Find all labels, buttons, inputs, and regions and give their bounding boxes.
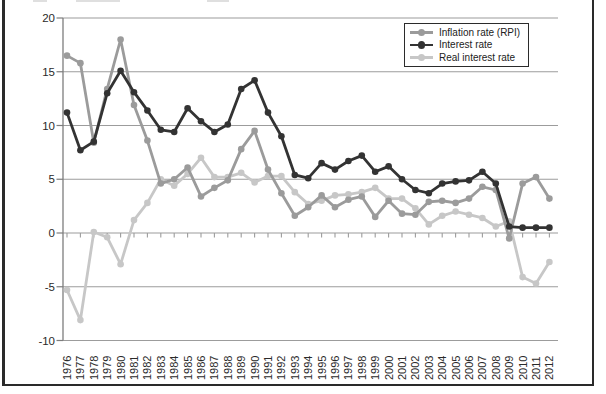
series-interest-rate-point-1979 (104, 90, 111, 97)
x-axis-label: 1992 (275, 356, 287, 380)
x-axis-label: 1979 (101, 356, 113, 380)
series-interest-rate-point-2007 (479, 168, 486, 175)
series-real-interest-rate-point-2010 (519, 274, 526, 281)
series-real-interest-rate-point-2003 (426, 221, 433, 228)
series-inflation-rate-rpi-point-1982 (144, 137, 151, 144)
series-interest-rate-point-2011 (533, 224, 540, 231)
legend-label: Interest rate (439, 39, 492, 50)
series-interest-rate-point-1986 (198, 118, 205, 125)
x-axis-label: 1991 (262, 356, 274, 380)
interest-rate-series-marker-icon (410, 41, 433, 49)
series-inflation-rate-rpi-point-1985 (184, 164, 191, 171)
series-interest-rate-point-1992 (278, 133, 285, 140)
series-inflation-rate-rpi-point-1995 (318, 192, 325, 199)
series-inflation-rate-rpi-point-1993 (292, 213, 299, 220)
x-axis-label: 2003 (423, 356, 435, 380)
series-real-interest-rate-point-1993 (292, 189, 299, 196)
series-inflation-rate-rpi-point-2007 (479, 183, 486, 190)
legend-label: Real interest rate (439, 52, 515, 63)
series-inflation-rate-rpi-point-1990 (251, 128, 258, 135)
series-interest-rate-point-1998 (359, 152, 366, 159)
x-axis-label: 1998 (356, 356, 368, 380)
series-real-interest-rate-point-1986 (198, 154, 205, 161)
series-interest-rate-point-2000 (385, 163, 392, 170)
x-axis-label: 2012 (543, 356, 555, 380)
series-real-interest-rate-point-1976 (64, 287, 71, 294)
series-inflation-rate-rpi-point-2011 (533, 174, 540, 181)
inflation-rate-series-marker-icon (410, 28, 433, 36)
real-interest-rate-series-marker-icon (410, 54, 433, 62)
x-axis-label: 2000 (383, 356, 395, 380)
series-interest-rate-point-2003 (426, 190, 433, 197)
series-real-interest-rate-point-1982 (144, 200, 151, 207)
series-real-interest-rate-point-1996 (332, 192, 339, 199)
x-axis-label: 2004 (436, 356, 448, 380)
series-inflation-rate-rpi-point-2006 (466, 195, 473, 202)
x-axis-label: 1981 (128, 356, 140, 380)
series-inflation-rate-rpi-point-1981 (131, 102, 138, 109)
series-interest-rate-point-1994 (305, 175, 312, 182)
x-axis-label: 2006 (463, 356, 475, 380)
series-real-interest-rate-point-1981 (131, 217, 138, 224)
x-axis-label: 1985 (182, 356, 194, 380)
series-real-interest-rate-point-1980 (117, 261, 124, 268)
x-axis-label: 2009 (503, 356, 515, 380)
x-axis-label: 2007 (476, 356, 488, 380)
series-inflation-rate-rpi-point-1991 (265, 166, 272, 173)
series-inflation-rate-rpi-point-1996 (332, 204, 339, 211)
series-interest-rate-point-1991 (265, 109, 272, 116)
series-inflation-rate-rpi-point-1976 (64, 52, 71, 59)
y-axis-label: -5 (45, 281, 55, 293)
series-real-interest-rate-point-1977 (77, 317, 84, 324)
chart-legend: Inflation rate (RPI) Interest rate Real … (404, 23, 529, 67)
series-interest-rate-point-2008 (493, 180, 500, 187)
legend-item-real-interest-rate: Real interest rate (410, 52, 526, 63)
series-inflation-rate-rpi-point-2010 (519, 180, 526, 187)
series-inflation-rate-rpi-point-1983 (158, 180, 165, 187)
series-real-interest-rate-point-1999 (372, 185, 379, 192)
series-inflation-rate-rpi-point-1980 (117, 36, 124, 43)
series-interest-rate-point-1990 (251, 77, 258, 84)
series-inflation-rate-rpi-point-2003 (426, 199, 433, 206)
series-interest-rate-point-2002 (412, 187, 419, 194)
series-inflation-rate-rpi-point-1977 (77, 60, 84, 67)
series-real-interest-rate-point-2005 (452, 208, 459, 215)
x-axis-label: 1976 (61, 356, 73, 380)
x-axis-label: 1990 (249, 356, 261, 380)
x-axis-label: 2002 (409, 356, 421, 380)
series-real-interest-rate-point-2012 (546, 259, 553, 266)
series-inflation-rate-rpi-point-2002 (412, 211, 419, 218)
legend-label: Inflation rate (RPI) (439, 27, 520, 38)
x-axis-label: 2001 (396, 356, 408, 380)
series-inflation-rate-rpi-point-1984 (171, 176, 178, 183)
series-interest-rate-point-2006 (466, 177, 473, 184)
series-inflation-rate-rpi-point-1992 (278, 190, 285, 197)
series-interest-rate-point-1978 (91, 138, 98, 145)
series-interest-rate-point-1999 (372, 168, 379, 175)
y-axis-label: 5 (49, 173, 55, 185)
x-axis-label: 1980 (115, 356, 127, 380)
series-interest-rate-point-1997 (345, 158, 352, 165)
series-inflation-rate-rpi-point-1987 (211, 185, 218, 192)
series-inflation-rate-rpi-point-2005 (452, 200, 459, 207)
figure-frame-right (592, 0, 594, 386)
chart-figure: 20151050-5-10197619771978197919801981198… (0, 0, 606, 394)
series-real-interest-rate-point-2011 (533, 280, 540, 287)
y-axis-label: 10 (42, 120, 55, 132)
series-real-interest-rate-point-1987 (211, 174, 218, 181)
x-axis-label: 1977 (74, 356, 86, 380)
y-axis-label: 15 (42, 66, 55, 78)
series-interest-rate-point-2005 (452, 178, 459, 185)
series-inflation-rate-rpi-point-1998 (359, 193, 366, 200)
series-interest-rate-point-1993 (292, 172, 299, 179)
x-axis-label: 1999 (369, 356, 381, 380)
legend-item-interest-rate: Interest rate (410, 39, 526, 50)
series-inflation-rate-rpi-point-2000 (385, 197, 392, 204)
x-axis-label: 2010 (517, 356, 529, 380)
x-axis-label: 2005 (450, 356, 462, 380)
series-interest-rate-point-1984 (171, 129, 178, 136)
figure-frame-bottom (2, 384, 594, 387)
series-interest-rate-point-1982 (144, 107, 151, 114)
series-inflation-rate-rpi-point-2001 (399, 210, 406, 217)
x-axis-label: 1988 (222, 356, 234, 380)
